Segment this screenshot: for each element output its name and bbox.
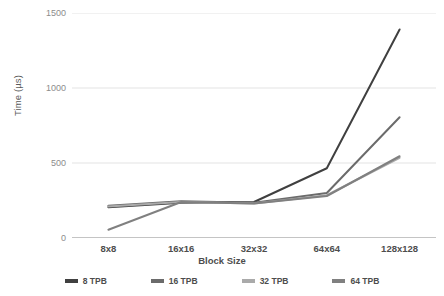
x-tick-label-128x128: 128x128 [381, 243, 418, 254]
line-chart: Time (µs) 050010001500 8x816x1632x3264x6… [0, 0, 444, 296]
legend-label: 16 TPB [169, 276, 198, 286]
legend-label: 64 TPB [350, 276, 379, 286]
series-line-64-tpb [108, 156, 399, 230]
x-tick-label-16x16: 16x16 [168, 243, 194, 254]
legend-swatch-icon [242, 279, 255, 283]
legend-label: 32 TPB [260, 276, 289, 286]
y-tick-label: 1500 [32, 8, 66, 18]
legend-item-16-tpb[interactable]: 16 TPB [151, 276, 198, 286]
legend-swatch-icon [151, 279, 164, 283]
legend-item-32-tpb[interactable]: 32 TPB [242, 276, 289, 286]
y-axis-title: Time (µs) [12, 41, 23, 151]
x-tick-label-64x64: 64x64 [314, 243, 340, 254]
plot-area [72, 13, 436, 238]
chart-svg [72, 13, 436, 238]
chart-legend: 8 TPB16 TPB32 TPB64 TPB [0, 276, 444, 286]
series-line-32-tpb [108, 158, 399, 207]
legend-label: 8 TPB [83, 276, 107, 286]
y-tick-label: 500 [32, 158, 66, 168]
x-tick-label-8x8: 8x8 [100, 243, 116, 254]
y-tick-label: 1000 [32, 83, 66, 93]
x-tick-label-32x32: 32x32 [241, 243, 267, 254]
legend-item-64-tpb[interactable]: 64 TPB [332, 276, 379, 286]
y-tick-label: 0 [32, 233, 66, 243]
series-line-16-tpb [108, 117, 399, 206]
legend-swatch-icon [65, 279, 78, 283]
legend-item-8-tpb[interactable]: 8 TPB [65, 276, 107, 286]
x-axis-title: Block Size [0, 255, 444, 266]
legend-swatch-icon [332, 279, 345, 283]
